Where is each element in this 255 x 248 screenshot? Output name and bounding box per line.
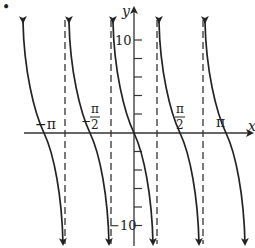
x-tick-label-neg-pi: −π bbox=[35, 116, 56, 132]
x-tick-label-neg-pi-half-minus: − bbox=[81, 114, 91, 128]
x-axis-label: x bbox=[248, 118, 255, 134]
y-axis-label: y bbox=[121, 3, 131, 19]
bullet-marker: • bbox=[2, 0, 10, 15]
x-tick-label-pi: π bbox=[216, 114, 225, 130]
x-tick-label-neg-pi-half-num: π bbox=[91, 102, 99, 116]
y-tick-label-10: 10 bbox=[115, 33, 132, 48]
x-tick-label-pi-half-num: π bbox=[176, 102, 184, 116]
tangent-graph: • y x 10 −10 −π − π 2 π 2 bbox=[0, 0, 255, 248]
x-tick-label-pi-half-den: 2 bbox=[176, 118, 184, 132]
x-tick-label-neg-pi-half-den: 2 bbox=[91, 118, 99, 132]
y-tick-label-neg-10: −10 bbox=[109, 218, 136, 233]
